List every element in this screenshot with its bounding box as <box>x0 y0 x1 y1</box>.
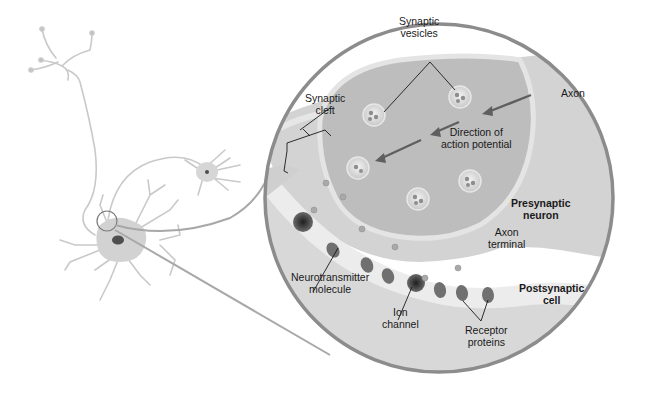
label-synaptic-cleft: Synaptic cleft <box>305 92 345 116</box>
label-direction-of-action-potential: Direction of action potential <box>441 126 512 150</box>
label-presynaptic-neuron: Presynaptic neuron <box>511 197 571 221</box>
label-axon: Axon <box>561 87 585 99</box>
synapse-diagram: Synaptic vesicles Synaptic cleft Axon Di… <box>0 0 654 394</box>
zoom-line-upper <box>115 165 272 231</box>
label-synaptic-vesicles: Synaptic vesicles <box>399 15 439 39</box>
label-ion-channel: Ion channel <box>382 306 419 330</box>
label-axon-terminal: Axon terminal <box>488 226 525 250</box>
label-receptor-proteins: Receptor proteins <box>465 324 508 348</box>
label-neurotransmitter-molecule: Neurotransmitter molecule <box>291 271 369 295</box>
nucleus <box>112 236 124 245</box>
label-postsynaptic-cell: Postsynaptic cell <box>519 282 584 306</box>
